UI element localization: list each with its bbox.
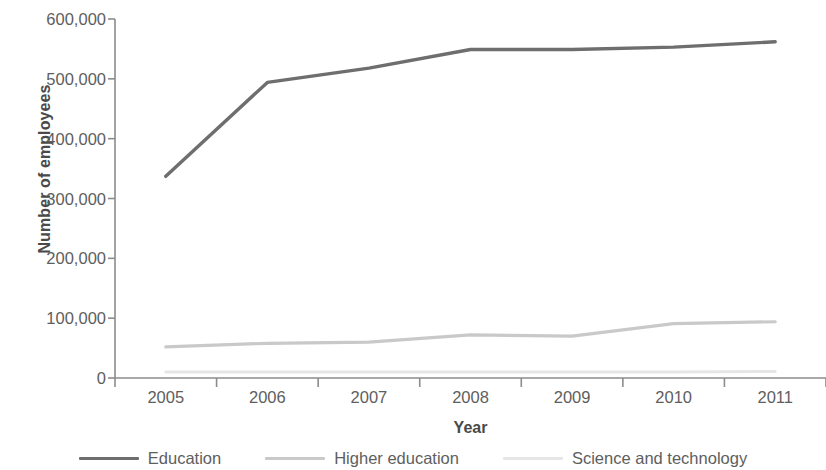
line-chart-figure: Number of employees 0100,000200,000300,0…: [0, 0, 826, 470]
y-axis-tick-label: 300,000: [16, 189, 106, 208]
series-line: [166, 371, 775, 372]
x-axis-tick-label: 2009: [527, 388, 617, 407]
y-axis-tick-label: 400,000: [16, 129, 106, 148]
y-axis-tick-label: 600,000: [16, 10, 106, 29]
legend-label: Higher education: [334, 449, 459, 468]
x-axis-tick-label: 2008: [426, 388, 516, 407]
x-axis-title: Year: [115, 419, 826, 437]
legend-item[interactable]: Higher education: [265, 449, 459, 468]
x-axis-tick-labels: 2005200620072008200920102011: [115, 388, 826, 416]
series-line: [166, 322, 775, 347]
y-axis-tick-label: 100,000: [16, 309, 106, 328]
legend-label: Science and technology: [572, 449, 747, 468]
x-axis-tick-label: 2005: [121, 388, 211, 407]
x-axis-tick-label: 2007: [324, 388, 414, 407]
legend-swatch-icon: [503, 457, 563, 460]
x-axis-tick-label: 2011: [730, 388, 820, 407]
chart-legend: EducationHigher educationScience and tec…: [0, 447, 826, 470]
y-axis-tick-label: 200,000: [16, 249, 106, 268]
data-series-layer: [115, 19, 826, 378]
y-axis-tick-labels: 0100,000200,000300,000400,000500,000600,…: [16, 0, 106, 470]
legend-item[interactable]: Education: [79, 449, 221, 468]
plot-area: [115, 19, 826, 378]
legend-item[interactable]: Science and technology: [503, 449, 747, 468]
x-axis-tick-label: 2010: [629, 388, 719, 407]
legend-swatch-icon: [79, 457, 139, 460]
legend-swatch-icon: [265, 457, 325, 460]
series-line: [166, 42, 775, 177]
y-axis-tick-label: 500,000: [16, 69, 106, 88]
x-axis-tick-label: 2006: [222, 388, 312, 407]
y-axis-tick-label: 0: [16, 369, 106, 388]
legend-label: Education: [148, 449, 221, 468]
